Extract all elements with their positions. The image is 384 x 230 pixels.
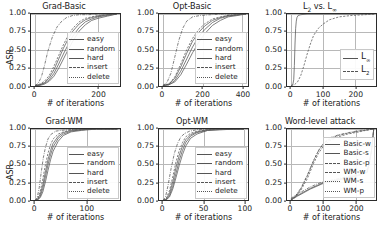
y-tick-mark (28, 13, 31, 14)
y-tick-mark (284, 164, 287, 165)
legend-item: delete (197, 187, 243, 196)
gridline-horizontal (159, 86, 248, 87)
legend-label: insert (87, 63, 108, 71)
x-tick-label: 200 (348, 91, 363, 99)
plot-frame: easyrandomhardinsertdelete (158, 128, 249, 202)
gridline-horizontal (287, 200, 376, 201)
legend-label: WM-s (343, 177, 363, 185)
y-tick-mark (284, 86, 287, 87)
legend-label: random (215, 159, 243, 167)
y-tick-label: 0.00 (265, 197, 282, 205)
legend-label: random (87, 45, 115, 53)
x-tick-label: 0 (32, 91, 37, 99)
legend-item: delete (69, 72, 115, 81)
y-tick-label: 0.75 (9, 142, 26, 150)
y-tick-label: 0.75 (265, 142, 282, 150)
x-axis-label: # of iterations (175, 213, 232, 222)
y-tick-label: 0.75 (265, 27, 282, 35)
plot-area: easyrandomhardinsertdelete1.000.750.500.… (158, 128, 249, 202)
legend-line-swatch (69, 36, 84, 42)
y-tick-mark (284, 31, 287, 32)
x-tick-label: 0 (288, 205, 293, 213)
legend-label: WM-w (343, 168, 365, 176)
y-tick-mark (156, 49, 159, 50)
x-tick-mark (202, 87, 203, 90)
legend-line-swatch (197, 55, 212, 61)
y-tick-label: 0.00 (137, 83, 154, 91)
x-tick-mark (34, 201, 35, 204)
y-tick-mark (156, 201, 159, 202)
legend-item: random (69, 158, 115, 167)
legend-line-swatch (197, 160, 212, 166)
legend-label: delete (215, 187, 238, 195)
legend-item: random (197, 44, 243, 53)
y-tick-mark (284, 145, 287, 146)
legend-label: insert (215, 63, 236, 71)
legend-line-swatch (69, 160, 84, 166)
legend-item: Basic-s (325, 149, 371, 158)
gridline-horizontal (287, 86, 376, 87)
legend-line-swatch (197, 170, 212, 176)
legend-line-swatch (197, 74, 212, 80)
y-tick-mark (28, 145, 31, 146)
y-tick-mark (28, 127, 31, 128)
legend-line-swatch (69, 64, 84, 70)
legend-line-swatch (69, 188, 84, 194)
legend-label: hard (215, 54, 231, 62)
legend-label: delete (215, 73, 238, 81)
legend-item: insert (197, 63, 243, 72)
x-tick-mark (203, 201, 204, 204)
legend-label: Basic-s (343, 149, 368, 157)
legend-line-swatch (197, 179, 212, 185)
y-tick-label: 0.00 (137, 197, 154, 205)
legend-line-swatch (197, 36, 212, 42)
legend-label: easy (215, 150, 232, 158)
legend-label: delete (87, 73, 110, 81)
x-tick-label: 100 (238, 205, 253, 213)
chart-panel-opt-wm: Opt-WMeasyrandomhardinsertdelete1.000.75… (128, 115, 256, 230)
legend-line-swatch (197, 64, 212, 70)
plot-area: L∞L21.000.750.500.250.000100200# of iter… (286, 13, 377, 87)
x-tick-mark (86, 201, 87, 204)
y-tick-label: 0.00 (265, 83, 282, 91)
legend-label: L∞ (361, 52, 371, 64)
legend-label: insert (215, 178, 236, 186)
y-tick-mark (156, 145, 159, 146)
x-tick-mark (290, 201, 291, 204)
gridline-horizontal (31, 86, 120, 87)
plot-area: easyrandomhardinsertdelete1.000.750.500.… (158, 13, 249, 87)
y-tick-mark (284, 68, 287, 69)
legend-label: random (215, 45, 243, 53)
legend-item: L2 (343, 64, 371, 77)
legend-line-swatch (69, 55, 84, 61)
plot-frame: easyrandomhardinsertdelete (30, 128, 121, 202)
legend-item: delete (197, 72, 243, 81)
chart-panel-l2-vs-linf: L2 vs. L∞L∞L21.000.750.500.250.000100200… (256, 0, 384, 115)
legend-item: L∞ (343, 51, 371, 64)
legend-item: WM-p (325, 186, 371, 195)
legend-label: random (87, 159, 115, 167)
legend-item: random (69, 44, 115, 53)
chart-panel-word-level-attack: Word-level attackBasic-wBasic-sBasic-pWM… (256, 115, 384, 230)
x-axis-label: # of iterations (303, 99, 360, 108)
legend-line-swatch (69, 170, 84, 176)
y-tick-label: 1.00 (137, 9, 154, 17)
y-tick-mark (156, 13, 159, 14)
legend-item: WM-w (325, 167, 371, 176)
y-tick-label: 0.75 (9, 27, 26, 35)
legend-line-swatch (325, 141, 340, 147)
legend-line-swatch (69, 74, 84, 80)
y-tick-label: 0.25 (137, 64, 154, 72)
legend-label: insert (87, 178, 108, 186)
legend-line-swatch (197, 188, 212, 194)
x-tick-mark (34, 87, 35, 90)
plot-area: easyrandomhardinsertdelete1.000.750.500.… (30, 128, 121, 202)
x-tick-mark (162, 201, 163, 204)
plot-area: Basic-wBasic-sBasic-pWM-wWM-sWM-p1.000.7… (286, 128, 377, 202)
chart-panel-grad-basic: Grad-Basiceasyrandomhardinsertdelete1.00… (0, 0, 128, 115)
legend-item: easy (69, 35, 115, 44)
y-tick-label: 0.50 (265, 46, 282, 54)
x-axis-label: # of iterations (47, 213, 104, 222)
legend-line-swatch (69, 179, 84, 185)
x-tick-mark (356, 201, 357, 204)
